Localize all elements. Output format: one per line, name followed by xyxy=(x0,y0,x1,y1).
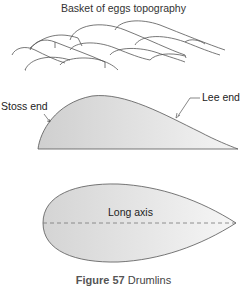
figure-title: Drumlins xyxy=(128,274,171,286)
stoss-end-label: Stoss end xyxy=(1,100,48,112)
basket-of-eggs-sketch xyxy=(12,21,225,70)
drumlin-diagram xyxy=(0,0,247,290)
long-axis-label: Long axis xyxy=(108,206,153,218)
drumlin-profile-shape xyxy=(38,96,238,149)
figure-number: Figure 57 xyxy=(76,274,125,286)
lee-end-label: Lee end xyxy=(202,91,240,103)
figure-caption: Figure 57 Drumlins xyxy=(0,274,247,286)
